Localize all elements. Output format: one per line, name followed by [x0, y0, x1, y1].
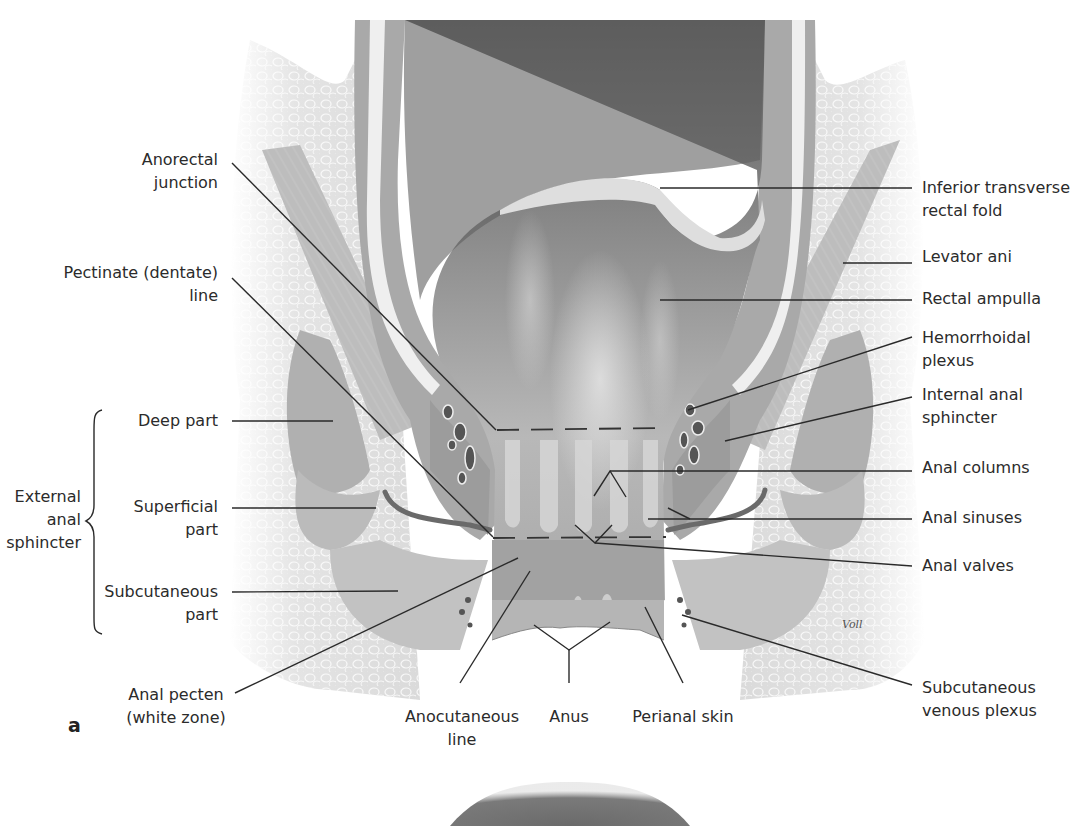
- label-line: Anal pecten: [120, 683, 232, 706]
- label-hemorrhoidal-plexus: Hemorrhoidal plexus: [922, 326, 1031, 372]
- label-line: Rectal ampulla: [922, 287, 1041, 310]
- label-anal-sinuses: Anal sinuses: [922, 506, 1022, 529]
- label-line: Subcutaneous: [104, 580, 218, 603]
- label-anal-columns: Anal columns: [922, 456, 1030, 479]
- label-line: Anocutaneous: [402, 705, 522, 728]
- label-anal-pecten: Anal pecten (white zone): [120, 683, 232, 729]
- label-line: Anorectal: [142, 148, 218, 171]
- label-anus: Anus: [539, 705, 599, 728]
- external-sphincter-brace: [86, 410, 102, 634]
- label-line: Superficial: [134, 495, 218, 518]
- label-line: Inferior transverse: [922, 176, 1070, 199]
- label-line: part: [104, 603, 218, 626]
- label-superficial-part: Superficial part: [134, 495, 218, 541]
- label-line: Anal sinuses: [922, 506, 1022, 529]
- label-line: anal: [6, 508, 81, 531]
- label-subcutaneous-part: Subcutaneous part: [104, 580, 218, 626]
- artist-signature: Voll: [842, 618, 863, 631]
- label-deep-part: Deep part: [138, 409, 218, 432]
- label-pectinate-line: Pectinate (dentate) line: [64, 261, 218, 307]
- label-line: (white zone): [120, 706, 232, 729]
- label-levator-ani: Levator ani: [922, 245, 1012, 268]
- label-line: Perianal skin: [628, 705, 738, 728]
- label-anorectal-junction: Anorectal junction: [142, 148, 218, 194]
- anal-opening-edge: [492, 600, 664, 640]
- label-line: rectal fold: [922, 199, 1070, 222]
- label-line: Anal valves: [922, 554, 1014, 577]
- label-line: line: [64, 284, 218, 307]
- label-line: Hemorrhoidal: [922, 326, 1031, 349]
- label-line: sphincter: [6, 531, 81, 554]
- label-line: part: [134, 518, 218, 541]
- label-subcutaneous-venous-plexus: Subcutaneous venous plexus: [922, 676, 1037, 722]
- label-line: Anus: [539, 705, 599, 728]
- label-line: Anal columns: [922, 456, 1030, 479]
- label-line: Internal anal: [922, 383, 1023, 406]
- label-line: sphincter: [922, 406, 1023, 429]
- label-line: Pectinate (dentate): [64, 261, 218, 284]
- label-line: Subcutaneous: [922, 676, 1037, 699]
- label-line: Deep part: [138, 409, 218, 432]
- label-inferior-transverse-rectal-fold: Inferior transverse rectal fold: [922, 176, 1070, 222]
- label-line: junction: [142, 171, 218, 194]
- label-line: Levator ani: [922, 245, 1012, 268]
- label-line: plexus: [922, 349, 1031, 372]
- label-line: venous plexus: [922, 699, 1037, 722]
- panel-letter: a: [68, 714, 81, 736]
- label-line: External: [6, 485, 81, 508]
- label-perianal-skin: Perianal skin: [628, 705, 738, 728]
- label-anocutaneous-line: Anocutaneous line: [402, 705, 522, 751]
- label-external-anal-sphincter: External anal sphincter: [6, 485, 81, 554]
- label-line: line: [402, 728, 522, 751]
- perianal-region-figure-b: [450, 782, 690, 826]
- label-rectal-ampulla: Rectal ampulla: [922, 287, 1041, 310]
- label-anal-valves: Anal valves: [922, 554, 1014, 577]
- label-internal-anal-sphincter: Internal anal sphincter: [922, 383, 1023, 429]
